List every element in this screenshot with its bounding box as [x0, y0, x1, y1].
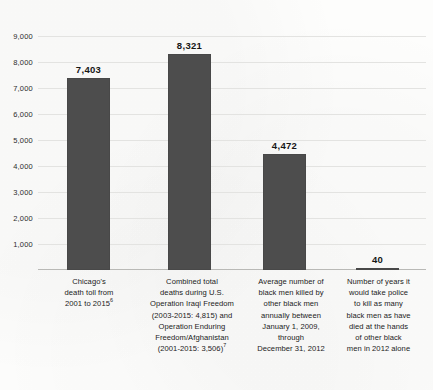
y-axis: 9,000 8,000 7,000 6,000 5,000 4,000 3,00…	[0, 8, 36, 270]
category-4-line-1: Number of years it	[331, 276, 426, 287]
category-4-line-3: to kill as many	[331, 298, 426, 309]
category-3-line-3: other black men	[243, 298, 339, 309]
y-tick-5000: 5,000	[13, 136, 33, 145]
y-tick-8000: 8,000	[13, 58, 33, 67]
x-axis-category-labels: Chicago's death toll from 2001 to 20156 …	[38, 276, 426, 388]
gridline-9000	[38, 36, 426, 37]
category-3-line-6: through	[243, 332, 339, 343]
category-4-line-4: black men as have	[331, 310, 426, 321]
category-2-line-7-text: (2001-2015: 3,506)	[158, 344, 224, 353]
category-3-line-7: December 31, 2012	[243, 343, 339, 354]
y-tick-6000: 6,000	[13, 110, 33, 119]
bar-rect-4[interactable]	[356, 268, 399, 270]
category-1-line-2: death toll from	[44, 287, 134, 298]
y-tick-9000: 9,000	[13, 32, 33, 41]
category-2-line-1: Combined total	[134, 276, 250, 287]
bar-value-3: 4,472	[272, 140, 297, 151]
category-label-3: Average number of black men killed by ot…	[243, 276, 339, 354]
bar-group-1[interactable]: 7,403	[67, 64, 110, 270]
category-label-2: Combined total deaths during U.S. Operat…	[134, 276, 250, 354]
category-1-footnote-marker: 6	[110, 298, 113, 304]
bar-value-2: 8,321	[177, 40, 202, 51]
category-3-line-2: black men killed by	[243, 287, 339, 298]
category-1-line-3: 2001 to 20156	[44, 298, 134, 309]
plot-area: 7,403 8,321 4,472 40	[38, 8, 426, 270]
gridline-8000	[38, 62, 426, 63]
category-2-line-4: (2003-2015: 4,815) and	[134, 310, 250, 321]
bar-rect-1[interactable]	[67, 78, 110, 270]
bar-rect-2[interactable]	[168, 54, 211, 270]
y-tick-7000: 7,000	[13, 84, 33, 93]
bar-group-2[interactable]: 8,321	[168, 40, 211, 270]
category-2-line-2: deaths during U.S.	[134, 287, 250, 298]
category-label-1: Chicago's death toll from 2001 to 20156	[44, 276, 134, 310]
category-1-line-3-text: 2001 to 2015	[65, 299, 110, 308]
category-2-footnote-marker: 7	[223, 343, 226, 349]
category-4-line-2: would take police	[331, 287, 426, 298]
bar-group-4[interactable]: 40	[356, 254, 399, 270]
category-2-line-3: Operation Iraqi Freedom	[134, 298, 250, 309]
category-4-line-6: of other black	[331, 332, 426, 343]
category-3-line-5: January 1, 2009,	[243, 321, 339, 332]
chart-page: 9,000 8,000 7,000 6,000 5,000 4,000 3,00…	[0, 0, 433, 390]
category-3-line-1: Average number of	[243, 276, 339, 287]
bar-value-1: 7,403	[76, 64, 101, 75]
bar-group-3[interactable]: 4,472	[263, 140, 306, 270]
y-tick-3000: 3,000	[13, 188, 33, 197]
category-3-line-4: annually between	[243, 310, 339, 321]
y-tick-1000: 1,000	[13, 240, 33, 249]
y-tick-4000: 4,000	[13, 162, 33, 171]
category-2-line-7: (2001-2015: 3,506)7	[134, 343, 250, 354]
bar-rect-3[interactable]	[263, 154, 306, 270]
category-4-line-7: men in 2012 alone	[331, 343, 426, 354]
bar-value-4: 40	[372, 254, 383, 265]
category-2-line-6: Freedom/Afghanistan	[134, 332, 250, 343]
y-tick-2000: 2,000	[13, 214, 33, 223]
category-1-line-1: Chicago's	[44, 276, 134, 287]
category-2-line-5: Operation Enduring	[134, 321, 250, 332]
category-4-line-5: died at the hands	[331, 321, 426, 332]
category-label-4: Number of years it would take police to …	[331, 276, 426, 354]
